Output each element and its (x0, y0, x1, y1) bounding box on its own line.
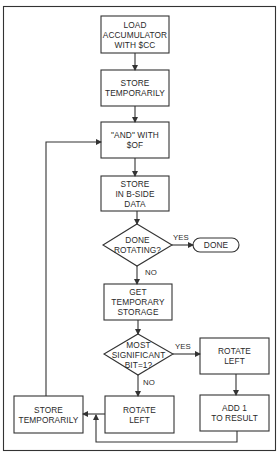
done-rotating-label: DONE ROTATING? (103, 224, 172, 266)
done-yes-label: YES (173, 233, 189, 242)
add-one-label: ADD 1 TO RESULT (200, 395, 269, 431)
msb-label: MOST SIGNIFICANT BIT=1? (104, 334, 173, 375)
done-terminal-label: DONE (193, 238, 239, 252)
msb-no-label: NO (143, 378, 155, 387)
done-no-label: NO (145, 268, 157, 277)
load-accumulator-label: LOAD ACCUMULATOR WITH $CC (101, 16, 169, 53)
store-temporarily-label: STORE TEMPORARILY (101, 70, 169, 106)
and-with-label: "AND" WITH $OF (101, 122, 169, 158)
store-b-side-label: STORE IN B-SIDE DATA (101, 176, 169, 211)
rotate-left-bottom-label: ROTATE LEFT (105, 396, 174, 433)
store-temporarily-bottom-label: STORE TEMPORARILY (14, 396, 83, 433)
get-temporary-storage-label: GET TEMPORARY STORAGE (104, 284, 172, 320)
rotate-left-right-label: ROTATE LEFT (200, 338, 269, 374)
msb-yes-label: YES (175, 342, 191, 351)
